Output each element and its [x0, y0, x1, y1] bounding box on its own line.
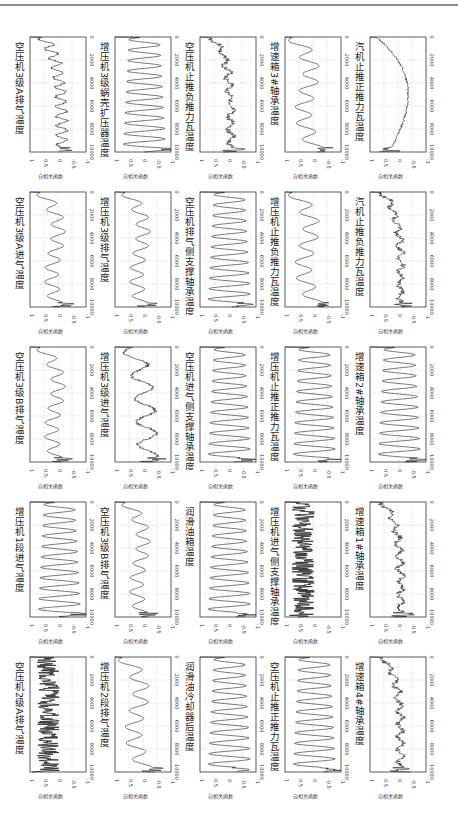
svg-text:0: 0: [174, 190, 180, 193]
svg-text:8000: 8000: [344, 278, 350, 291]
subplot: 10.50-0.5-10200040006000800010000空压机止推负推…: [182, 32, 266, 187]
svg-text:10000: 10000: [259, 144, 265, 160]
y-axis-label: 自相关函数: [123, 482, 148, 489]
svg-text:0.5: 0.5: [128, 314, 134, 322]
subplot-title: 增压机1段进气温度: [13, 507, 25, 625]
svg-text:6000: 6000: [429, 565, 435, 578]
svg-text:-0.5: -0.5: [156, 159, 162, 169]
subplot: 10.50-0.5-10200040006000800010000空压机2级A排…: [12, 652, 96, 807]
svg-text:0.5: 0.5: [383, 469, 389, 477]
svg-text:0: 0: [89, 345, 95, 348]
svg-text:0.5: 0.5: [383, 779, 389, 787]
svg-text:2000: 2000: [259, 519, 265, 532]
subplot: 10.50-0.5-10200040006000800010000空压机3级A进…: [12, 187, 96, 342]
svg-text:8000: 8000: [259, 123, 265, 136]
subplot-title: 空压机止推正推力瓦温度: [268, 662, 280, 780]
svg-text:0: 0: [429, 190, 435, 193]
svg-text:0.5: 0.5: [43, 624, 49, 632]
svg-text:2000: 2000: [344, 519, 350, 532]
svg-text:0: 0: [227, 159, 233, 162]
svg-text:-0.5: -0.5: [326, 779, 332, 789]
svg-text:8000: 8000: [344, 588, 350, 601]
svg-text:4000: 4000: [259, 697, 265, 710]
svg-text:1: 1: [114, 469, 120, 472]
svg-text:4000: 4000: [429, 232, 435, 245]
svg-text:-0.5: -0.5: [411, 624, 417, 634]
svg-text:0.5: 0.5: [383, 159, 389, 167]
svg-text:0.5: 0.5: [43, 779, 49, 787]
svg-text:0.5: 0.5: [128, 469, 134, 477]
svg-text:8000: 8000: [174, 743, 180, 756]
svg-text:4000: 4000: [429, 77, 435, 90]
svg-text:0.5: 0.5: [213, 779, 219, 787]
subplot: 10.50-0.5-10200040006000800010000增压机止推正推…: [267, 342, 351, 497]
svg-text:6000: 6000: [174, 255, 180, 268]
svg-text:8000: 8000: [259, 588, 265, 601]
svg-text:0: 0: [142, 314, 148, 317]
y-axis-label: 自相关函数: [208, 172, 233, 179]
subplot: 10.50-0.5-10200040006000800010000润滑油箱温度自…: [182, 497, 266, 652]
svg-text:4000: 4000: [174, 697, 180, 710]
subplot: 10.50-0.5-10200040006000800010000汽机止推负推力…: [352, 187, 436, 342]
y-axis-label: 自相关函数: [123, 327, 148, 334]
svg-text:0: 0: [344, 345, 350, 348]
svg-text:0: 0: [89, 190, 95, 193]
svg-text:10000: 10000: [344, 299, 350, 315]
svg-text:2000: 2000: [89, 674, 95, 687]
svg-text:2000: 2000: [174, 54, 180, 67]
subplot: 10.50-0.5-10200040006000800010000空压机3级B排…: [97, 497, 181, 652]
svg-text:1: 1: [369, 624, 375, 627]
y-axis-label: 自相关函数: [378, 327, 403, 334]
svg-text:6000: 6000: [429, 720, 435, 733]
y-axis-label: 自相关函数: [38, 792, 63, 799]
svg-text:0: 0: [429, 35, 435, 38]
svg-text:4000: 4000: [429, 697, 435, 710]
svg-text:8000: 8000: [174, 433, 180, 446]
svg-text:-0.5: -0.5: [156, 314, 162, 324]
subplot: 10.50-0.5-10200040006000800010000空压机3级A排…: [12, 32, 96, 187]
svg-text:2000: 2000: [344, 209, 350, 222]
svg-text:0: 0: [312, 624, 318, 627]
svg-text:0.5: 0.5: [213, 624, 219, 632]
svg-text:6000: 6000: [174, 100, 180, 113]
subplot: 10.50-0.5-10200040006000800010000增压机3级排气…: [97, 187, 181, 342]
svg-text:10000: 10000: [89, 609, 95, 625]
svg-text:10000: 10000: [429, 144, 435, 160]
svg-text:4000: 4000: [89, 387, 95, 400]
svg-text:0: 0: [397, 159, 403, 162]
svg-text:6000: 6000: [259, 410, 265, 423]
svg-text:4000: 4000: [89, 77, 95, 90]
subplot-title: 增速箱1#轴承温度: [353, 507, 365, 625]
svg-text:2000: 2000: [174, 209, 180, 222]
subplot: 10.50-0.5-10200040006000800010000空压机排气侧支…: [182, 187, 266, 342]
svg-text:1: 1: [114, 624, 120, 627]
svg-text:-0.5: -0.5: [241, 779, 247, 789]
subplot: 10.50-0.5-10200040006000800010000增速箱2#轴承…: [352, 342, 436, 497]
svg-text:0: 0: [429, 345, 435, 348]
svg-text:4000: 4000: [344, 542, 350, 555]
svg-text:2000: 2000: [429, 364, 435, 377]
svg-text:2000: 2000: [89, 519, 95, 532]
svg-text:10000: 10000: [344, 144, 350, 160]
subplot-title: 增压机进气侧支撑轴承温度: [268, 507, 280, 625]
svg-text:0: 0: [259, 35, 265, 38]
svg-text:6000: 6000: [89, 565, 95, 578]
svg-text:-0.5: -0.5: [156, 469, 162, 479]
svg-text:10000: 10000: [89, 454, 95, 470]
svg-text:10000: 10000: [89, 299, 95, 315]
svg-text:-0.5: -0.5: [411, 779, 417, 789]
svg-text:1: 1: [199, 159, 205, 162]
svg-text:1: 1: [29, 314, 35, 317]
svg-text:1: 1: [114, 779, 120, 782]
svg-text:0: 0: [397, 624, 403, 627]
subplot-title: 润滑油冷却器后温度: [183, 662, 195, 780]
y-axis-label: 自相关函数: [378, 172, 403, 179]
svg-text:0: 0: [397, 314, 403, 317]
svg-text:-0.5: -0.5: [71, 624, 77, 634]
svg-text:4000: 4000: [259, 232, 265, 245]
y-axis-label: 自相关函数: [208, 792, 233, 799]
subplot-title: 汽机止推负推力瓦温度: [353, 197, 365, 315]
svg-text:10000: 10000: [259, 764, 265, 780]
svg-text:1: 1: [199, 469, 205, 472]
subplot-title: 增压机3级蜗壳扩压器温度: [98, 42, 110, 160]
